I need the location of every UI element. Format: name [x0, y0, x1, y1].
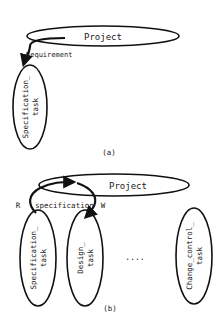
ellipsis-label: ....: [125, 253, 144, 262]
specification-task-ellipse-a: [13, 65, 47, 149]
specification-task-line2-a: task: [31, 97, 40, 116]
change-control-task-line1: Change_control_: [185, 222, 194, 290]
specification-task-line1-a: Specification_: [21, 75, 30, 139]
caption-a: (a): [102, 148, 116, 157]
specification-task-line1-b: Specification_: [29, 226, 38, 290]
project-label-a: Project: [84, 32, 122, 42]
requirement-label: Requirement: [26, 51, 72, 59]
diagram-a: Project Requirement Specification_ task …: [13, 26, 179, 157]
change-control-task-ellipse: [176, 208, 212, 304]
design-task-line2: task: [86, 248, 95, 267]
read-marker: R: [16, 201, 21, 210]
write-marker: W: [101, 201, 106, 210]
design-task-line1: Design_: [76, 242, 85, 274]
design-task-ellipse: [67, 210, 103, 306]
specification-task-ellipse-b: [20, 210, 56, 306]
diagram-canvas: Project Requirement Specification_ task …: [0, 0, 217, 325]
caption-b: (b): [103, 304, 117, 313]
diagram-b: Project R specification W Specification_…: [16, 174, 212, 313]
specification-task-line2-b: task: [39, 248, 48, 267]
project-label-b: Project: [109, 181, 147, 191]
change-control-task-line2: task: [195, 246, 204, 265]
specification-relation-label: specification: [35, 201, 94, 210]
